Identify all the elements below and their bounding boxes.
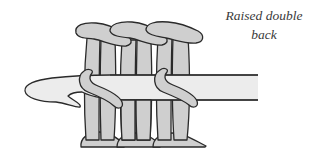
caption-line-1: Raised double: [218, 6, 310, 25]
post-2b-front: [136, 100, 151, 140]
figure-caption: Raised double back: [218, 6, 310, 44]
caption-line-2: back: [218, 25, 310, 44]
post-2a-front: [121, 100, 135, 140]
